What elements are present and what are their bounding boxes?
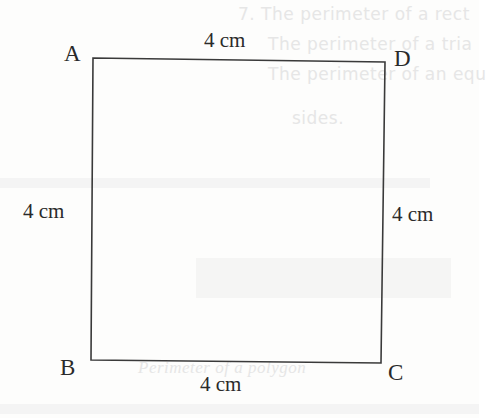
vertex-label-b: B xyxy=(60,356,75,379)
vertex-label-c: C xyxy=(388,361,403,384)
vertex-label-a: A xyxy=(64,42,81,65)
square-outline xyxy=(91,58,385,363)
side-label-bottom: 4 cm xyxy=(200,374,241,395)
vertex-label-d: D xyxy=(394,47,411,70)
side-label-right: 4 cm xyxy=(392,204,433,225)
side-label-left: 4 cm xyxy=(23,201,64,222)
side-label-top: 4 cm xyxy=(204,30,245,51)
